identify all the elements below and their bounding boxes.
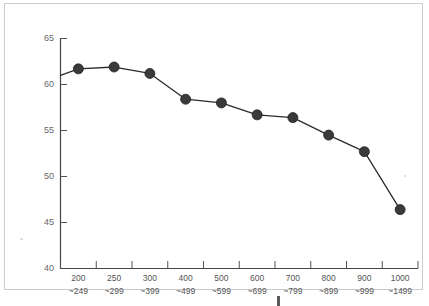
y-axis-tick-labels: 404550556065 bbox=[44, 33, 54, 273]
y-tick-label: 60 bbox=[44, 79, 54, 89]
x-tick-label-upper: 700 bbox=[286, 273, 300, 283]
x-tick-label-upper: 1000 bbox=[391, 273, 410, 283]
x-tick-label-upper: 500 bbox=[214, 273, 228, 283]
x-tick-label-upper: 900 bbox=[357, 273, 371, 283]
y-tick-label: 50 bbox=[44, 171, 54, 181]
data-point-marker bbox=[252, 110, 262, 120]
x-tick-label-lower: ~499 bbox=[176, 286, 195, 296]
x-tick-label-lower: ~999 bbox=[355, 286, 374, 296]
x-tick-label-upper: 250 bbox=[107, 273, 121, 283]
x-axis: 2002503004005006007008009001000 ~249~299… bbox=[61, 261, 419, 296]
series-markers bbox=[73, 62, 405, 215]
y-tick-label: 65 bbox=[44, 33, 54, 43]
x-tick-label-lower: ~699 bbox=[248, 286, 267, 296]
x-tick-label-lower: ~399 bbox=[140, 286, 159, 296]
x-tick-label-upper: 400 bbox=[179, 273, 193, 283]
data-point-marker bbox=[324, 130, 334, 140]
chart-figure: 404550556065 200250300400500600700800900… bbox=[0, 0, 429, 306]
x-axis-tick-labels-lower: ~249~299~399~499~599~699~799~899~999~149… bbox=[69, 286, 413, 296]
y-tick-label: 45 bbox=[44, 217, 54, 227]
series-line-path bbox=[61, 67, 401, 210]
data-point-marker bbox=[288, 113, 298, 123]
y-tick-label: 55 bbox=[44, 125, 54, 135]
x-tick-label-lower: ~249 bbox=[69, 286, 88, 296]
data-point-marker bbox=[109, 62, 119, 72]
y-tick-label: 40 bbox=[44, 263, 54, 273]
x-tick-label-lower: ~1499 bbox=[388, 286, 412, 296]
scan-speck bbox=[20, 238, 23, 240]
x-tick-label-upper: 600 bbox=[250, 273, 264, 283]
data-point-marker bbox=[359, 147, 369, 157]
y-axis: 404550556065 bbox=[44, 33, 67, 273]
x-axis-tick-labels-upper: 2002503004005006007008009001000 bbox=[71, 273, 410, 283]
x-tick-label-lower: ~299 bbox=[105, 286, 124, 296]
line-chart-plot: 404550556065 200250300400500600700800900… bbox=[0, 0, 429, 306]
data-series bbox=[61, 62, 406, 215]
data-point-marker bbox=[216, 98, 226, 108]
data-point-marker bbox=[181, 94, 191, 104]
bottom-edge-mark bbox=[277, 296, 280, 306]
data-point-marker bbox=[145, 68, 155, 78]
x-tick-label-upper: 800 bbox=[322, 273, 336, 283]
x-tick-label-lower: ~599 bbox=[212, 286, 231, 296]
x-tick-label-upper: 300 bbox=[143, 273, 157, 283]
x-tick-label-lower: ~899 bbox=[319, 286, 338, 296]
data-point-marker bbox=[73, 64, 83, 74]
scan-speck bbox=[404, 175, 406, 177]
x-tick-label-lower: ~799 bbox=[283, 286, 302, 296]
data-point-marker bbox=[395, 205, 405, 215]
x-tick-label-upper: 200 bbox=[71, 273, 85, 283]
x-axis-ticks bbox=[61, 261, 419, 269]
